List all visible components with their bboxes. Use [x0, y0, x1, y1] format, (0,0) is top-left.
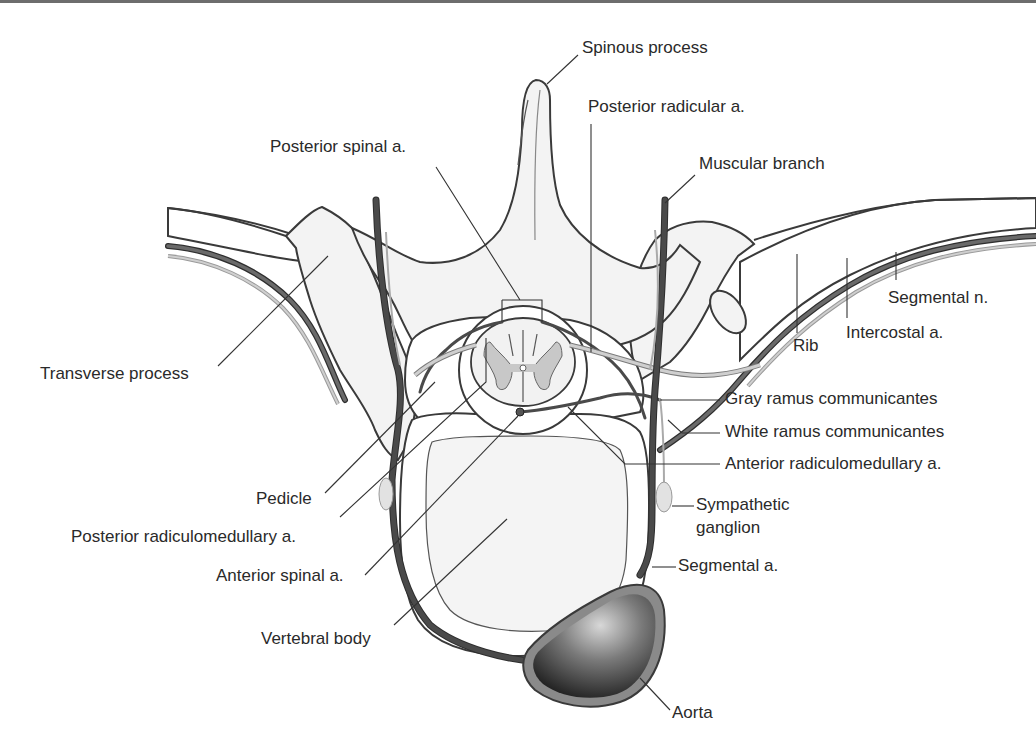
label-posterior-spinal-artery: Posterior spinal a. [270, 137, 406, 157]
label-vertebral-body: Vertebral body [261, 629, 371, 649]
leader-spinous-process [547, 55, 578, 84]
label-rib: Rib [793, 336, 819, 356]
label-posterior-radicular-artery: Posterior radicular a. [588, 97, 745, 117]
label-anterior-radiculomedullary-artery: Anterior radiculomedullary a. [725, 454, 941, 474]
label-sympathetic-ganglion-line2: ganglion [696, 518, 760, 538]
label-aorta: Aorta [672, 703, 713, 723]
label-intercostal-artery: Intercostal a. [846, 323, 943, 343]
label-segmental-nerve: Segmental n. [888, 288, 988, 308]
label-sympathetic-ganglion-line1: Sympathetic [696, 495, 790, 515]
label-spinous-process: Spinous process [582, 38, 708, 58]
leader-aorta [640, 678, 670, 710]
label-posterior-radiculomedullary-artery: Posterior radiculomedullary a. [71, 527, 296, 547]
label-transverse-process: Transverse process [40, 364, 189, 384]
label-anterior-spinal-artery: Anterior spinal a. [216, 566, 344, 586]
label-gray-ramus-communicantes: Gray ramus communicantes [725, 389, 938, 409]
label-white-ramus-communicantes: White ramus communicantes [725, 422, 944, 442]
label-segmental-artery: Segmental a. [678, 556, 778, 576]
leader-muscular-branch [665, 175, 695, 203]
label-pedicle: Pedicle [256, 489, 312, 509]
label-muscular-branch: Muscular branch [699, 154, 825, 174]
